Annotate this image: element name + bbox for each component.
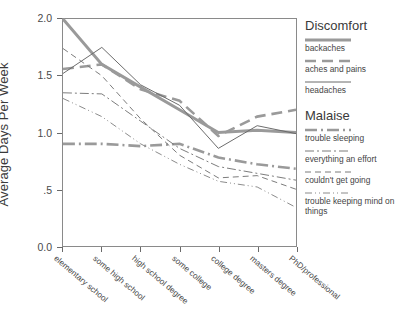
legend-label: trouble sleeping	[305, 133, 397, 143]
y-axis-label: Average Days Per Week	[0, 20, 14, 249]
legend-swatch	[305, 147, 351, 154]
x-tick-mark	[62, 247, 63, 252]
series-lines	[63, 19, 296, 246]
legend-item[interactable]: trouble keeping mind on things	[305, 189, 397, 216]
legend-swatch	[305, 168, 351, 175]
legend-swatch	[305, 78, 351, 85]
line-chart: Average Days Per Week 0.0.51.01.52.0 ele…	[0, 0, 398, 319]
legend-label: trouble keeping mind on things	[305, 196, 397, 216]
legend-item[interactable]: trouble sleeping	[305, 126, 397, 143]
x-tick-mark	[219, 247, 220, 252]
legend-swatch	[305, 189, 351, 196]
legend-swatch	[305, 126, 351, 133]
legend-group-heading: Discomfort	[305, 18, 397, 33]
series-line	[63, 47, 296, 148]
legend-label: headaches	[305, 85, 397, 95]
y-tick-label: 1.0	[18, 127, 52, 139]
legend-group-heading: Malaise	[305, 108, 397, 123]
x-tick-mark	[297, 247, 298, 252]
series-line	[63, 64, 296, 136]
legend-swatch	[305, 36, 351, 43]
legend: Discomfortbackachesaches and painsheadac…	[305, 18, 397, 220]
x-tick-label: some college	[170, 254, 213, 292]
legend-label: aches and pains	[305, 64, 397, 74]
legend-item[interactable]: aches and pains	[305, 57, 397, 74]
legend-item[interactable]: headaches	[305, 78, 397, 95]
legend-label: everything an effort	[305, 154, 397, 164]
legend-group-spacer	[305, 99, 397, 108]
legend-item[interactable]: everything an effort	[305, 147, 397, 164]
series-line	[63, 144, 296, 169]
legend-item[interactable]: couldn't get going	[305, 168, 397, 185]
y-tick-label: 2.0	[18, 12, 52, 24]
x-tick-mark	[258, 247, 259, 252]
series-line	[63, 49, 296, 190]
legend-swatch	[305, 57, 351, 64]
y-tick-label: .5	[18, 184, 52, 196]
legend-label: backaches	[305, 43, 397, 53]
y-tick-label: 1.5	[18, 69, 52, 81]
x-tick-mark	[101, 247, 102, 252]
plot-area	[62, 18, 297, 247]
legend-item[interactable]: backaches	[305, 36, 397, 53]
legend-label: couldn't get going	[305, 175, 397, 185]
x-tick-mark	[140, 247, 141, 252]
y-tick-label: 0.0	[18, 241, 52, 253]
x-tick-mark	[180, 247, 181, 252]
